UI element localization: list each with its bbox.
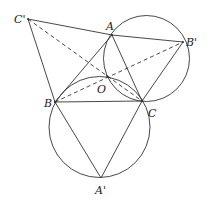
segment-B-Aprime (55, 102, 101, 178)
label-Bprime: B' (185, 36, 197, 49)
point-C (141, 100, 143, 102)
label-C: C (148, 107, 157, 120)
point-B (54, 101, 56, 103)
circle-through-A-C-Bprime (104, 16, 190, 102)
point-A (111, 34, 113, 36)
segment-Bprime-C (142, 42, 183, 101)
dashed-Cprime-C (28, 19, 142, 101)
point-Cprime (27, 18, 29, 20)
label-A: A (105, 20, 114, 33)
point-O (106, 75, 108, 77)
label-O: O (97, 83, 106, 96)
segment-Cprime-B (28, 19, 55, 102)
label-Aprime: A' (94, 184, 106, 197)
segment-Cprime-A (28, 19, 112, 35)
label-B: B (43, 97, 52, 110)
segment-C-Aprime (101, 101, 142, 178)
segment-A-Bprime (112, 35, 183, 42)
label-Cprime: C' (14, 13, 25, 26)
geometry-diagram: C' A B' O B C A' (0, 0, 211, 203)
point-Bprime (182, 41, 184, 43)
segment-B-C (55, 101, 142, 102)
